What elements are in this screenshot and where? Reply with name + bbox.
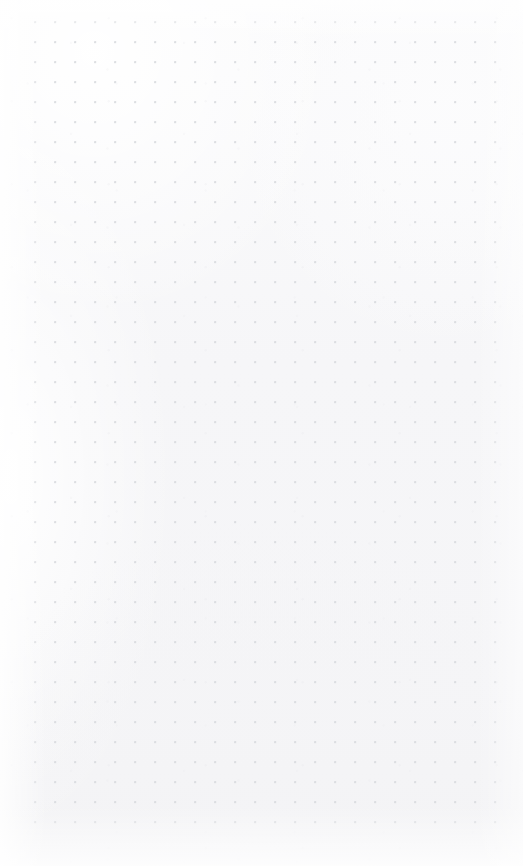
dot-grid-surface[interactable]	[0, 0, 523, 866]
dot-grid-page	[0, 0, 523, 866]
